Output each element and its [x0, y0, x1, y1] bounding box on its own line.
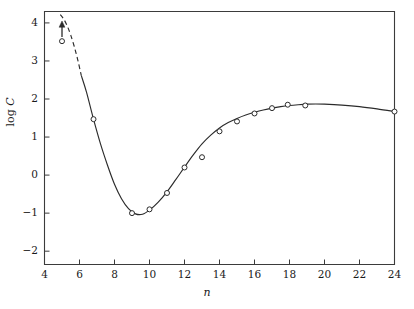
- x-axis-label: n: [0, 286, 414, 299]
- y-tick-label: 1: [16, 130, 38, 142]
- x-tick-label: 14: [207, 268, 233, 280]
- y-tick-label: −1: [16, 206, 38, 218]
- x-tick-label: 18: [277, 268, 303, 280]
- y-tick-label: 0: [16, 168, 38, 180]
- x-tick-label: 10: [137, 268, 163, 280]
- x-tick-label: 20: [312, 268, 338, 280]
- y-axis-label: log C: [4, 111, 17, 127]
- x-tick-label: 24: [382, 268, 408, 280]
- y-axis-label-prefix: log: [4, 106, 17, 127]
- x-tick-label: 6: [67, 268, 93, 280]
- x-tick-label: 12: [172, 268, 198, 280]
- chart-plot-area: [0, 0, 414, 309]
- x-tick-label: 4: [32, 268, 58, 280]
- y-tick-label: 2: [16, 92, 38, 104]
- y-tick-label: 4: [16, 16, 38, 28]
- chart-background: [0, 0, 414, 309]
- y-tick-label: 3: [16, 54, 38, 66]
- y-axis-label-variable: C: [4, 97, 17, 105]
- figure-container: log C n 4681012141618202224 −2−101234: [0, 0, 414, 309]
- x-tick-label: 16: [242, 268, 268, 280]
- x-tick-label: 22: [347, 268, 373, 280]
- x-tick-label: 8: [102, 268, 128, 280]
- y-tick-label: −2: [16, 244, 38, 256]
